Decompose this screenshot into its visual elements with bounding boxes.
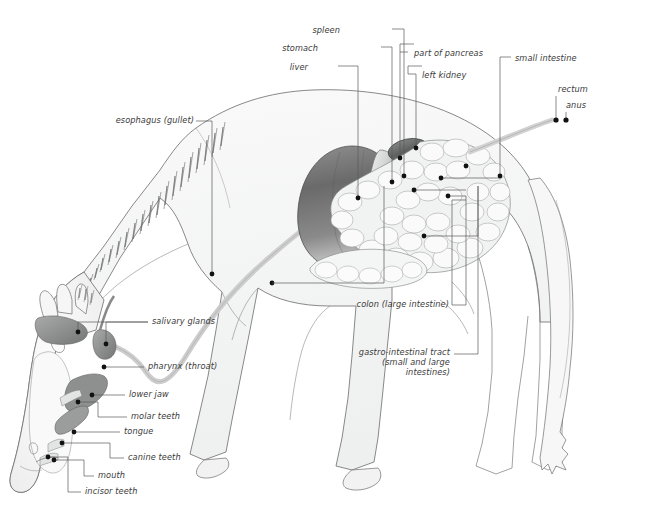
- label-esophagus: esophagus (gullet): [88, 115, 194, 126]
- label-left-kidney: left kidney: [422, 70, 496, 81]
- dot-liver: [356, 196, 361, 201]
- front-hoof-right: [343, 468, 381, 490]
- label-part-of-pancreas: part of pancreas: [414, 48, 514, 59]
- dot-gi-tract: [422, 234, 427, 239]
- label-pharynx: pharynx (throat): [148, 361, 246, 372]
- dot-spleen: [402, 174, 407, 179]
- dot-mouth: [52, 458, 57, 463]
- anatomy-diagram: liver stomach spleen part of pancreas le…: [0, 0, 649, 516]
- label-tongue: tongue: [124, 426, 172, 437]
- hind-leg-near: [470, 232, 528, 474]
- label-incisor-teeth: incisor teeth: [85, 486, 163, 497]
- leader-pancreas-tick: [400, 44, 414, 52]
- label-spleen: spleen: [292, 25, 340, 36]
- dot-small-intestine: [498, 174, 503, 179]
- label-colon: colon (large intestine): [329, 299, 449, 310]
- dot-stomach: [390, 180, 395, 185]
- dot-tongue: [72, 430, 77, 435]
- dot-kidney: [414, 146, 419, 151]
- label-liver: liver: [258, 62, 308, 73]
- dot-si-upper: [439, 176, 444, 181]
- label-gi-tract-line2: (small and large: [334, 357, 450, 368]
- dot-pancreas: [398, 156, 403, 161]
- label-small-intestine: small intestine: [515, 53, 607, 64]
- label-mouth: mouth: [98, 470, 144, 481]
- dot-colon-upper: [446, 194, 451, 199]
- dot-incisor: [46, 455, 51, 460]
- label-salivary-glands: salivary glands: [152, 316, 244, 327]
- label-canine-teeth: canine teeth: [128, 452, 202, 463]
- label-stomach: stomach: [258, 43, 318, 54]
- dot-salivary-2: [104, 342, 109, 347]
- label-anus: anus: [566, 100, 606, 111]
- dot-molar: [76, 400, 81, 405]
- dot-anus: [563, 117, 568, 122]
- label-lower-jaw: lower jaw: [129, 389, 191, 400]
- ear-left: [40, 291, 58, 318]
- label-rectum: rectum: [558, 84, 606, 95]
- label-gi-tract-line1: gastro-intestinal tract: [334, 347, 450, 358]
- label-gi-tract-line3: intestines): [334, 367, 450, 378]
- dot-canine: [60, 441, 65, 446]
- foreleg-division: [290, 306, 330, 420]
- dot-salivary-1: [76, 330, 81, 335]
- horse-anatomy-illustration: [0, 0, 649, 516]
- label-molar-teeth: molar teeth: [131, 411, 201, 422]
- dot-colon: [412, 188, 417, 193]
- dot-pharynx: [102, 365, 107, 370]
- dot-intestine-extra: [464, 164, 469, 169]
- leader-kidney-tick: [408, 66, 422, 74]
- dot-lower-jaw: [90, 393, 95, 398]
- dot-rectum: [553, 117, 558, 122]
- hock-detail: [452, 282, 474, 314]
- dot-esophagus: [210, 272, 215, 277]
